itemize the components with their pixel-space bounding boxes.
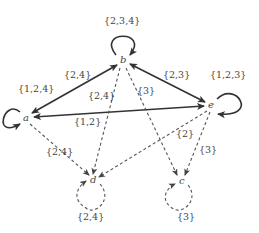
edge-b-d-label: {2,4} [88, 90, 115, 101]
loop-a [3, 109, 20, 128]
edge-e-d [99, 111, 207, 177]
edge-b-e-label: {2,3} [163, 69, 190, 80]
edge-a-b-label: {2,4} [64, 69, 91, 80]
loop-d [77, 181, 105, 210]
loop-e [217, 94, 241, 115]
loop-e-label: {1,2,3} [210, 69, 246, 80]
edge-e-a [34, 106, 204, 117]
edge-b-c-label: {3} [137, 85, 155, 96]
loop-b-label: {2,3,4} [104, 15, 140, 26]
edge-e-a-label: {1,2} [74, 116, 101, 127]
node-c: c [179, 175, 185, 186]
node-b: b [120, 54, 126, 65]
loop-c-label: {3} [177, 211, 195, 222]
edge-a-d-label: {2,4} [46, 146, 73, 157]
state-graph: a b e d c {1,2,4} {2,3,4} {1,2,3} {2,4} … [0, 0, 259, 233]
loop-d-label: {2,4} [77, 211, 104, 222]
edge-e-c-label: {3} [199, 144, 217, 155]
edge-e-d-label: {2} [176, 128, 194, 139]
loop-a-label: {1,2,4} [18, 83, 54, 94]
node-d: d [90, 174, 96, 185]
loop-c [165, 184, 192, 210]
node-e: e [208, 99, 214, 110]
node-a: a [23, 112, 29, 123]
loop-b [111, 36, 134, 55]
